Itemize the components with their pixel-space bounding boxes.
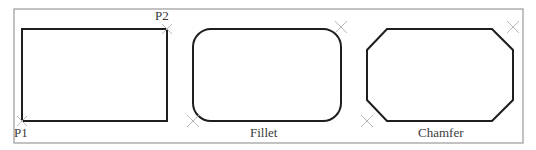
fillet-corner-marker-icon	[335, 21, 347, 33]
plain-rectangle-shape	[22, 29, 167, 121]
panel-chamfer	[361, 21, 519, 127]
point-p1-label: P1	[14, 126, 28, 139]
chamfer-caption: Chamfer	[418, 126, 463, 139]
fillet-caption: Fillet	[250, 126, 277, 139]
chamfer-rectangle-shape	[367, 29, 513, 121]
fillet-rectangle-shape	[193, 29, 341, 121]
chamfer-corner-marker-icon	[361, 115, 373, 127]
point-p2-label: P2	[155, 9, 169, 22]
chamfer-corner-marker-icon	[507, 21, 519, 33]
panel-rectangle	[17, 24, 172, 126]
panel-fillet	[187, 21, 347, 127]
fillet-corner-marker-icon	[187, 115, 199, 127]
